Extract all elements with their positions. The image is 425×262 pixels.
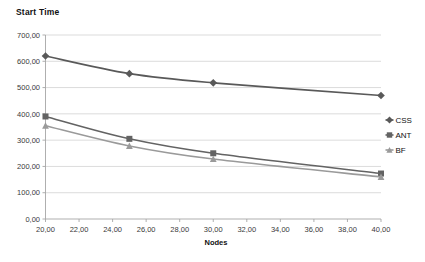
marker-diamond xyxy=(386,117,393,124)
y-axis-ticks: 0,00100,00200,00300,00400,00500,00600,00… xyxy=(17,31,45,224)
x-tick-label: 36,00 xyxy=(305,225,324,234)
marker-square xyxy=(126,136,132,142)
y-tick-label: 400,00 xyxy=(17,110,40,119)
x-tick-label: 26,00 xyxy=(137,225,156,234)
x-tick-label: 34,00 xyxy=(271,225,290,234)
data-series xyxy=(42,52,385,180)
chart-plot: 0,00100,00200,00300,00400,00500,00600,00… xyxy=(0,0,425,262)
marker-diamond xyxy=(209,79,217,87)
legend-item-css[interactable]: CSS xyxy=(386,116,412,125)
y-tick-label: 700,00 xyxy=(17,31,40,40)
x-tick-label: 40,00 xyxy=(372,225,391,234)
y-tick-label: 500,00 xyxy=(17,83,40,92)
axes xyxy=(46,35,382,219)
x-tick-label: 22,00 xyxy=(70,225,89,234)
legend-label: CSS xyxy=(396,116,412,125)
legend-label: BF xyxy=(396,146,406,155)
y-tick-label: 600,00 xyxy=(17,57,40,66)
x-tick-label: 30,00 xyxy=(204,225,223,234)
gridlines xyxy=(46,35,382,193)
marker-square xyxy=(210,150,216,156)
legend-label: ANT xyxy=(396,131,412,140)
series-line xyxy=(46,116,382,173)
marker-diamond xyxy=(42,52,50,60)
series-line xyxy=(46,56,382,95)
marker-square xyxy=(43,113,49,119)
x-tick-label: 32,00 xyxy=(237,225,256,234)
x-tick-label: 24,00 xyxy=(103,225,122,234)
y-tick-label: 200,00 xyxy=(17,162,40,171)
x-axis-ticks: 20,0022,0024,0026,0028,0030,0032,0034,00… xyxy=(36,219,390,234)
x-axis-title: Nodes xyxy=(205,238,228,247)
chart-legend: CSSANTBF xyxy=(386,116,412,155)
marker-diamond xyxy=(126,70,134,78)
y-tick-label: 0,00 xyxy=(25,215,40,224)
x-tick-label: 20,00 xyxy=(36,225,55,234)
x-tick-label: 28,00 xyxy=(170,225,189,234)
marker-square xyxy=(387,132,392,137)
x-tick-label: 38,00 xyxy=(338,225,357,234)
y-tick-label: 100,00 xyxy=(17,188,40,197)
legend-item-ant[interactable]: ANT xyxy=(386,131,412,140)
chart-container: Start Time 0,00100,00200,00300,00400,005… xyxy=(0,0,425,262)
marker-diamond xyxy=(377,92,385,100)
y-tick-label: 300,00 xyxy=(17,136,40,145)
legend-item-bf[interactable]: BF xyxy=(386,146,406,155)
series-ant xyxy=(43,113,385,176)
series-css xyxy=(42,52,385,99)
